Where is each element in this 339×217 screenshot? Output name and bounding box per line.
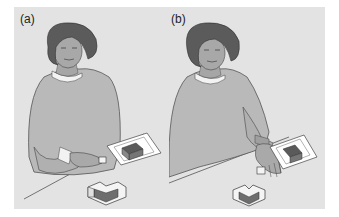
panel-label-a: (a) [20,12,35,26]
panel-b: (b) [169,7,324,209]
panel-label-b: (b) [171,12,186,26]
panel-a: (a) [14,7,169,209]
figure-illustration: (a) [14,7,325,209]
woman-with-blocks-illustration-b [169,7,325,209]
woman-with-blocks-illustration-a [14,7,169,209]
